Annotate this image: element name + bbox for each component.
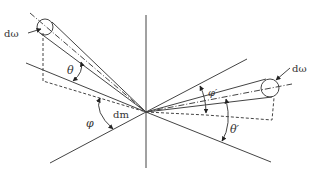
scattering-diagram: dω dω θ φ dm φ′ θ′	[0, 0, 317, 176]
label-phi-prime: φ′	[208, 87, 218, 98]
d-omega-right-pointer	[276, 68, 290, 80]
scattered-axis	[146, 84, 292, 112]
label-dm: dm	[113, 109, 129, 120]
incident-cone-edge	[40, 33, 146, 112]
label-theta-prime: θ′	[230, 123, 240, 136]
scattered-projection	[146, 98, 274, 120]
plane-line-upper-left	[26, 63, 146, 112]
scattered-cone-edge	[146, 97, 272, 112]
theta-prime-arc	[222, 99, 228, 141]
phi-prime-arc	[200, 86, 206, 113]
plane-line-lower-right	[146, 112, 271, 162]
label-theta: θ	[67, 64, 74, 77]
phi-arc	[99, 98, 113, 129]
label-phi: φ	[86, 117, 94, 130]
label-d-omega-right: dω	[292, 63, 307, 74]
plane-line-upper-right	[146, 59, 247, 112]
plane-line-lower-left	[50, 112, 146, 163]
theta-arc	[73, 62, 82, 81]
incident-axis	[30, 13, 146, 112]
label-d-omega-left: dω	[4, 28, 19, 39]
